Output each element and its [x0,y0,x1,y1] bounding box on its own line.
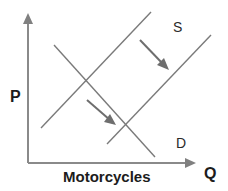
y-axis-label-price: P [10,89,21,105]
supply-shift-arrow [140,40,169,70]
supply-curve-shifted [107,35,211,144]
supply-curve-label: S [173,20,182,34]
y-axis-arrow-icon [23,13,33,24]
x-axis-arrow-icon [185,158,196,168]
supply-demand-diagram [0,0,228,191]
demand-curve-label: D [176,136,186,150]
x-axis-label-quantity: Q [204,166,216,182]
supply-curve-original [41,12,151,128]
good-label-motorcycles: Motorcycles [63,169,151,184]
equilibrium-shift-arrow [87,100,116,125]
x-axis [28,158,196,168]
y-axis [23,13,33,163]
